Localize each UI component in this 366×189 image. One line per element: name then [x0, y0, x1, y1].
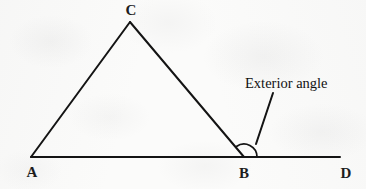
exterior-angle-callout-label: Exterior angle — [245, 75, 328, 91]
callout-leader-line — [256, 93, 273, 144]
vertex-label-A: A — [27, 164, 38, 180]
segment-AC — [31, 22, 130, 157]
vertex-label-D: D — [341, 165, 352, 181]
geometry-figure: A B C D Exterior angle — [0, 0, 366, 189]
vertex-label-C: C — [126, 2, 137, 18]
segment-CB — [130, 22, 244, 157]
figure-canvas: A B C D Exterior angle — [0, 0, 366, 189]
vertex-label-B: B — [239, 165, 249, 181]
